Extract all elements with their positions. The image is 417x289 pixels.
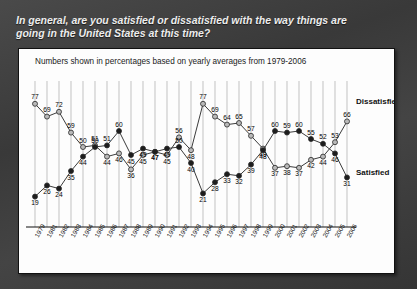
- data-label: 66: [343, 111, 351, 118]
- data-label: 31: [343, 180, 351, 187]
- legend-label-dissatisfied: Dissatisfied: [356, 97, 395, 106]
- data-label: 64: [223, 114, 231, 121]
- data-label: 36: [127, 172, 135, 179]
- data-label: 40: [187, 166, 195, 173]
- data-label: 44: [319, 159, 327, 166]
- data-label: 50: [175, 137, 183, 144]
- data-label: 26: [43, 188, 51, 195]
- survey-question: In general, are you satisfied or dissati…: [16, 14, 376, 40]
- data-label: 39: [247, 167, 255, 174]
- data-label: 37: [271, 170, 279, 177]
- data-label: 59: [67, 122, 75, 129]
- data-label: 32: [235, 178, 243, 185]
- data-label: 72: [55, 101, 63, 108]
- data-label: 56: [175, 127, 183, 134]
- chart-legend: Dissatisfied Satisfied: [356, 79, 392, 231]
- data-label: 45: [163, 158, 171, 165]
- data-label: 57: [247, 125, 255, 132]
- data-label: 21: [199, 196, 207, 203]
- data-label: 45: [127, 158, 135, 165]
- data-label: 50: [79, 137, 87, 144]
- data-label: 50: [91, 137, 99, 144]
- data-label: 60: [295, 121, 303, 128]
- data-label: 28: [211, 185, 219, 192]
- x-axis-labels: 1979198119821983198419851986198719881989…: [26, 235, 356, 271]
- data-label: 77: [199, 93, 207, 100]
- chart-panel: Numbers shown in percentages based on ye…: [18, 48, 395, 274]
- data-label: 46: [331, 156, 339, 163]
- data-label: 60: [271, 121, 279, 128]
- data-label: 47: [151, 154, 159, 161]
- data-label: 52: [319, 133, 327, 140]
- line-chart-plot: 7769725950514446364547455648776964655749…: [26, 79, 356, 231]
- data-label: 46: [115, 156, 123, 163]
- data-label: 69: [43, 106, 51, 113]
- data-label: 60: [115, 121, 123, 128]
- data-label: 33: [223, 177, 231, 184]
- data-label: 19: [31, 199, 39, 206]
- data-label: 48: [259, 153, 267, 160]
- data-label: 38: [283, 169, 291, 176]
- data-label: 45: [139, 158, 147, 165]
- data-label: 35: [67, 174, 75, 181]
- data-label: 48: [187, 153, 195, 160]
- chart-subtitle: Numbers shown in percentages based on ye…: [35, 57, 306, 66]
- data-label: 69: [211, 106, 219, 113]
- data-label: 59: [283, 122, 291, 129]
- data-label: 77: [31, 93, 39, 100]
- data-label: 24: [55, 191, 63, 198]
- data-label: 37: [295, 170, 303, 177]
- data-label: 44: [103, 159, 111, 166]
- legend-label-satisfied: Satisfied: [356, 168, 389, 177]
- data-label: 65: [235, 113, 243, 120]
- data-label: 42: [307, 162, 315, 169]
- data-label: 51: [103, 135, 111, 142]
- chart-svg: 7769725950514446364547455648776964655749…: [26, 79, 356, 231]
- data-label: 44: [79, 159, 87, 166]
- data-label: 55: [307, 129, 315, 136]
- data-label: 53: [331, 132, 339, 139]
- data-label: 49: [139, 151, 147, 158]
- data-label: 49: [163, 151, 171, 158]
